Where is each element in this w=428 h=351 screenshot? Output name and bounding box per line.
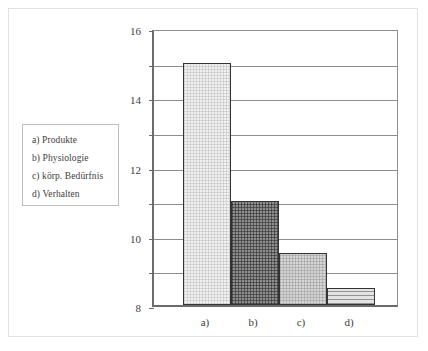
bar-chart-figure: a) Produkte b) Physiologie c) körp. Bedü… [0, 0, 428, 351]
y-axis-tick-label: 12 [130, 169, 141, 170]
legend-item-d: d) Verhalten [23, 185, 118, 203]
x-axis-tick-label: d) [325, 316, 373, 328]
legend-item-c: c) körp. Bedürfnis [23, 167, 118, 185]
bar-c [279, 253, 327, 305]
bar-a [183, 63, 231, 305]
legend-label-b: b) Physiologie [32, 153, 89, 163]
y-axis-tick-label: 8 [136, 308, 142, 309]
legend-item-b: b) Physiologie [23, 149, 118, 167]
y-axis-tick: 0 [149, 308, 154, 309]
bar-b [231, 201, 279, 305]
chart-legend: a) Produkte b) Physiologie c) körp. Bedü… [22, 124, 119, 206]
plot-area: 0246810121416 [152, 30, 398, 307]
legend-label-a: a) Produkte [32, 135, 77, 145]
legend-label-c: c) körp. Bedürfnis [32, 171, 103, 181]
y-axis-tick-label: 10 [130, 238, 141, 239]
x-axis-tick-label: b) [229, 316, 277, 328]
legend-label-d: d) Verhalten [32, 189, 80, 199]
bars-layer [154, 31, 397, 305]
bar-d [327, 288, 375, 305]
y-axis-tick-label: 14 [130, 100, 141, 101]
x-axis-tick-label: a) [181, 316, 229, 328]
legend-item-a: a) Produkte [23, 131, 118, 149]
x-axis-tick-label: c) [277, 316, 325, 328]
y-axis-tick-label: 16 [130, 31, 141, 32]
